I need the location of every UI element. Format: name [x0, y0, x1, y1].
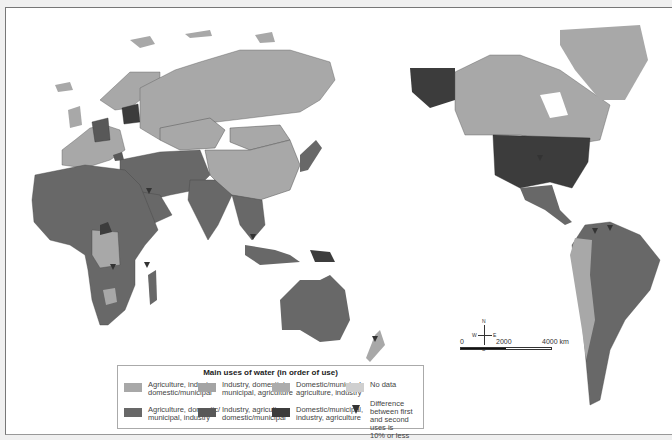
scale-tick-0: 0	[460, 338, 464, 345]
legend-item-no-data: No data	[346, 381, 396, 392]
legend-swatch	[346, 383, 364, 392]
scale-tick-2000: 2000	[496, 338, 512, 345]
scale-bar-graphic	[460, 347, 552, 350]
legend-swatch	[272, 408, 290, 417]
legend-swatch	[198, 408, 216, 417]
legend-title: Main uses of water (in order of use)	[118, 369, 423, 377]
legend-swatch	[124, 408, 142, 417]
legend-label: No data	[370, 381, 396, 389]
compass-n: N	[482, 318, 486, 324]
legend-label: 10% or less	[370, 432, 423, 440]
legend-item-difference: Difference between firstand second uses …	[346, 400, 423, 439]
legend-label: and second uses is	[370, 416, 423, 432]
legend-swatch	[124, 383, 142, 392]
legend: Main uses of water (in order of use) Agr…	[117, 365, 424, 429]
legend-swatch	[198, 383, 216, 392]
triangle-down-icon	[352, 405, 360, 414]
compass-ew-line	[478, 335, 492, 336]
legend-label: Difference between first	[370, 400, 423, 416]
scale-tick-4000: 4000 km	[542, 338, 569, 345]
legend-swatch	[272, 383, 290, 392]
compass-w: W	[472, 332, 477, 338]
